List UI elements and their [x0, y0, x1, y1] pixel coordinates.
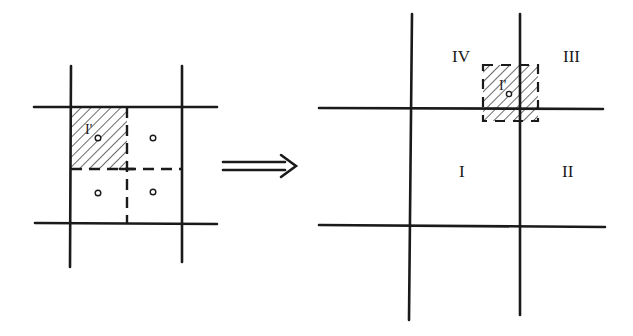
- node-point: [95, 135, 101, 141]
- quadrant-label-iv: IV: [452, 47, 471, 66]
- grid-line-top: [319, 108, 603, 109]
- node-point: [150, 135, 156, 141]
- quadrant-label-ii: II: [562, 162, 574, 181]
- transform-arrow-icon: [223, 155, 296, 177]
- shifted-node-point: [506, 91, 511, 96]
- node-point: [150, 189, 156, 195]
- grid-line-left: [409, 14, 412, 320]
- node-point: [95, 190, 101, 196]
- shifted-cell-label: I': [499, 78, 506, 93]
- grid-line-left: [70, 66, 71, 267]
- quadrant-label-iii: III: [563, 47, 580, 66]
- grid-line-bottom: [319, 225, 605, 227]
- left-panel: I': [34, 66, 217, 267]
- right-panel: I' IV III I II: [319, 14, 605, 320]
- shaded-cell-label: I': [85, 122, 92, 137]
- grid-transformation-diagram: I' I' IV III I II: [0, 0, 633, 336]
- quadrant-label-i: I: [459, 162, 465, 181]
